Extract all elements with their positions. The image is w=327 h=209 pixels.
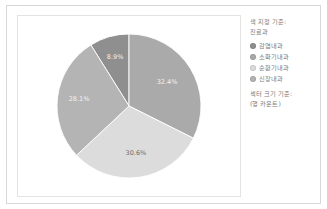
- legend-title-line1: 색 지정 기준:: [250, 17, 322, 27]
- legend-item-list[interactable]: 감염내과소화기내과순환기내과신장내과: [250, 40, 322, 84]
- legend-footer: 섹터 크기 기준: (행 카운트): [250, 89, 322, 109]
- worksheet-frame: 8.9%32.4%30.6%28.1% 색 지정 기준: 진료과 감염내과소화기…: [6, 5, 321, 204]
- pie-slice-label: 8.9%: [107, 53, 124, 61]
- legend-panel: 색 지정 기준: 진료과 감염내과소화기내과순환기내과신장내과 섹터 크기 기준…: [246, 15, 322, 197]
- legend-item-label: 감염내과: [259, 41, 283, 51]
- legend-item[interactable]: 순환기내과: [250, 62, 322, 73]
- visualization-root: 8.9%32.4%30.6%28.1% 색 지정 기준: 진료과 감염내과소화기…: [0, 0, 327, 209]
- pie-chart-svg[interactable]: 8.9%32.4%30.6%28.1%: [54, 31, 204, 181]
- pie-chart-pane[interactable]: 8.9%32.4%30.6%28.1%: [17, 15, 241, 197]
- legend-footer-line2: (행 카운트): [250, 99, 322, 109]
- pie-slice-label: 30.6%: [126, 149, 147, 157]
- legend-color-swatch-icon: [250, 43, 256, 49]
- legend-item-label: 순환기내과: [259, 63, 289, 73]
- pie-slice-label: 32.4%: [157, 78, 178, 86]
- pie-chart[interactable]: 8.9%32.4%30.6%28.1%: [54, 31, 204, 181]
- legend-item[interactable]: 신장내과: [250, 73, 322, 84]
- legend-item-label: 신장내과: [259, 74, 283, 84]
- legend-color-swatch-icon: [250, 76, 256, 82]
- legend-item[interactable]: 감염내과: [250, 40, 322, 51]
- legend-item[interactable]: 소화기내과: [250, 51, 322, 62]
- legend-color-swatch-icon: [250, 54, 256, 60]
- pie-slice-label: 28.1%: [69, 95, 90, 103]
- legend-color-swatch-icon: [250, 65, 256, 71]
- legend-title-line2: 진료과: [250, 27, 322, 37]
- legend-footer-line1: 섹터 크기 기준:: [250, 89, 322, 99]
- legend-item-label: 소화기내과: [259, 52, 289, 62]
